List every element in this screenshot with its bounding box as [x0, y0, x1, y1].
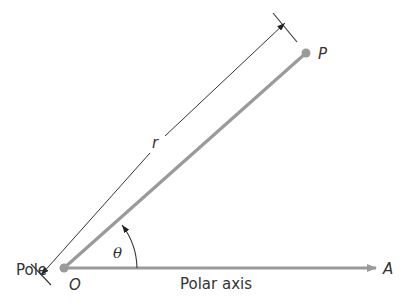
axis-end-label: A [382, 260, 393, 278]
pole-label: Pole [16, 261, 47, 279]
angle-arc [122, 225, 137, 268]
point-p-label: P [318, 45, 328, 63]
dimension-line-lower [41, 153, 150, 275]
pole-point [60, 264, 69, 273]
dimension-line-upper [165, 23, 285, 136]
polar-axis-label: Polar axis [180, 275, 252, 293]
dimension-tick-end [273, 13, 297, 42]
radius-label: r [152, 134, 159, 152]
radius-ray [64, 53, 306, 268]
polar-diagram: Pole O P r θ Polar axis A [0, 0, 404, 306]
point-p [302, 49, 311, 58]
angle-label: θ [113, 244, 122, 262]
origin-label: O [69, 276, 81, 294]
